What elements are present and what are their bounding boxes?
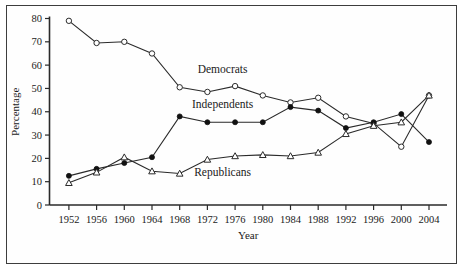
line-chart-canvas: 01020304050607080Percentage 195219561960… — [0, 0, 464, 271]
y-tick-label: 80 — [32, 13, 43, 24]
data-point-marker — [426, 140, 431, 145]
y-tick-label: 0 — [37, 200, 42, 211]
data-point-marker — [121, 154, 128, 160]
y-tick-label: 60 — [32, 60, 43, 71]
series-democrats — [66, 18, 432, 149]
x-tick-label: 1992 — [335, 214, 356, 225]
y-tick-label: 10 — [32, 176, 43, 187]
data-point-marker — [205, 120, 210, 125]
x-axis-title-text: Year — [238, 229, 259, 241]
data-point-marker — [399, 144, 404, 149]
data-point-marker — [260, 93, 265, 98]
series-annotation-republicans: Republicans — [194, 166, 251, 179]
data-point-marker — [233, 120, 238, 125]
data-point-marker — [260, 120, 265, 125]
data-point-marker — [177, 114, 182, 119]
data-point-marker — [122, 161, 127, 166]
data-point-marker — [66, 18, 71, 23]
data-point-marker — [232, 83, 237, 88]
x-tick-label: 1972 — [197, 214, 218, 225]
series-annotation-independents: Independents — [192, 98, 254, 111]
x-tick-label: 1976 — [225, 214, 246, 225]
data-point-marker — [149, 155, 154, 160]
data-point-marker — [315, 95, 320, 100]
x-tick-label: 2004 — [418, 214, 440, 225]
data-point-marker — [399, 112, 404, 117]
data-point-marker — [149, 51, 154, 56]
chart-figure: 01020304050607080Percentage 195219561960… — [0, 0, 464, 271]
data-point-marker — [177, 85, 182, 90]
data-point-marker — [122, 39, 127, 44]
x-tick-label: 1960 — [114, 214, 135, 225]
x-tick-label: 2000 — [391, 214, 412, 225]
data-point-marker — [316, 108, 321, 113]
data-point-marker — [343, 114, 348, 119]
y-tick-label: 20 — [32, 153, 43, 164]
data-point-marker — [66, 173, 71, 178]
data-point-marker — [94, 40, 99, 45]
x-axis: 1952195619601964196819721976198019841988… — [50, 205, 448, 241]
series-annotation-democrats: Democrats — [198, 63, 248, 75]
y-axis: 01020304050607080Percentage — [9, 13, 50, 211]
x-tick-label: 1964 — [141, 214, 163, 225]
x-tick-label: 1956 — [86, 214, 107, 225]
data-point-marker — [315, 149, 322, 155]
x-tick-label: 1980 — [252, 214, 273, 225]
x-tick-label: 1952 — [58, 214, 79, 225]
x-tick-label: 1984 — [280, 214, 302, 225]
y-tick-label: 70 — [32, 36, 43, 47]
y-axis-title-text: Percentage — [9, 88, 21, 136]
y-tick-label: 40 — [32, 106, 43, 117]
x-tick-label: 1988 — [308, 214, 329, 225]
x-tick-label: 1968 — [169, 214, 190, 225]
y-tick-label: 50 — [32, 83, 43, 94]
data-point-marker — [205, 89, 210, 94]
y-tick-label: 30 — [32, 130, 43, 141]
data-point-marker — [288, 105, 293, 110]
x-tick-label: 1996 — [363, 214, 384, 225]
